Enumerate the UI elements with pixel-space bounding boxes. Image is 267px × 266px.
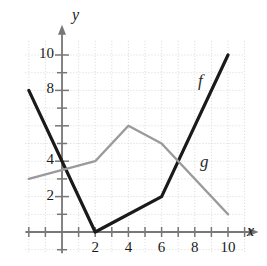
- y-tick-label: 10: [28, 45, 54, 62]
- y-axis-label: y: [72, 6, 79, 24]
- y-tick-label: 8: [28, 80, 54, 97]
- x-tick-label: 6: [150, 239, 174, 256]
- line-chart-plot: [0, 0, 267, 266]
- x-tick-label: 2: [83, 239, 107, 256]
- x-tick-label: 8: [183, 239, 207, 256]
- chart-figure: y x f g 24681024810: [0, 0, 267, 266]
- curve-label-g: g: [200, 152, 209, 172]
- curve-label-f: f: [198, 71, 203, 91]
- y-tick-label: 4: [28, 151, 54, 168]
- axes: [25, 25, 258, 253]
- x-axis-label: x: [247, 222, 254, 240]
- x-tick-label: 10: [216, 239, 240, 256]
- y-tick-label: 2: [28, 187, 54, 204]
- x-tick-label: 4: [116, 239, 140, 256]
